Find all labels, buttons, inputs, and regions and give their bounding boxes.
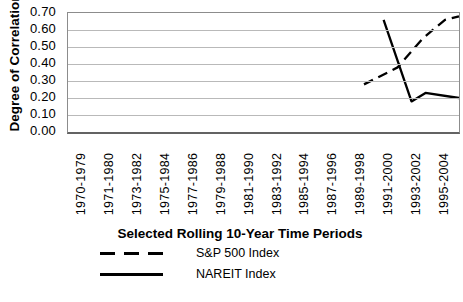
series-line-s-p-500-index bbox=[364, 16, 459, 84]
chart-container: Degree of Correlation 0.700.600.500.400.… bbox=[0, 0, 463, 302]
x-tick-label: 1979-1988 bbox=[214, 153, 228, 215]
x-tick-labels: 1970-19791971-19801973-19821975-19841977… bbox=[67, 136, 458, 232]
legend-label: NAREIT Index bbox=[196, 266, 276, 282]
x-tick-label: 1971-1980 bbox=[102, 153, 116, 215]
y-tick-label: 0.30 bbox=[0, 73, 56, 87]
x-axis-title: Selected Rolling 10-Year Time Periods bbox=[67, 226, 413, 241]
x-tick-label: 1975-1984 bbox=[158, 153, 172, 215]
dashed-line-sample bbox=[100, 252, 163, 255]
gridline bbox=[68, 64, 459, 65]
x-tick-label: 1995-2004 bbox=[437, 153, 451, 215]
gridline bbox=[68, 115, 459, 116]
x-tick-label: 1991-2000 bbox=[381, 153, 395, 215]
y-tick-labels: 0.700.600.500.400.300.200.100.00 bbox=[0, 12, 60, 131]
x-tick-label: 1993-2002 bbox=[409, 153, 423, 215]
x-tick-label: 1977-1986 bbox=[186, 153, 200, 215]
series-line-nareit-index bbox=[384, 20, 459, 102]
x-tick-label: 1983-1992 bbox=[270, 153, 284, 215]
legend-label: S&P 500 Index bbox=[196, 245, 279, 261]
x-tick-label: 1985-1994 bbox=[297, 153, 311, 215]
solid-line-sample bbox=[100, 273, 163, 276]
y-tick-label: 0.60 bbox=[0, 22, 56, 36]
y-tick-label: 0.70 bbox=[0, 5, 56, 19]
gridline bbox=[68, 98, 459, 99]
y-tick-label: 0.20 bbox=[0, 90, 56, 104]
y-tick-label: 0.40 bbox=[0, 56, 56, 70]
gridline bbox=[68, 47, 459, 48]
x-tick-label: 1989-1998 bbox=[353, 153, 367, 215]
gridline bbox=[68, 81, 459, 82]
y-tick-label: 0.10 bbox=[0, 107, 56, 121]
y-tick-label: 0.50 bbox=[0, 39, 56, 53]
gridline bbox=[68, 30, 459, 31]
x-tick-label: 1987-1996 bbox=[325, 153, 339, 215]
y-tick-label: 0.00 bbox=[0, 124, 56, 138]
x-tick-label: 1970-1979 bbox=[74, 153, 88, 215]
x-tick-label: 1973-1982 bbox=[130, 153, 144, 215]
plot-area bbox=[67, 12, 460, 134]
x-tick-label: 1981-1990 bbox=[242, 153, 256, 215]
